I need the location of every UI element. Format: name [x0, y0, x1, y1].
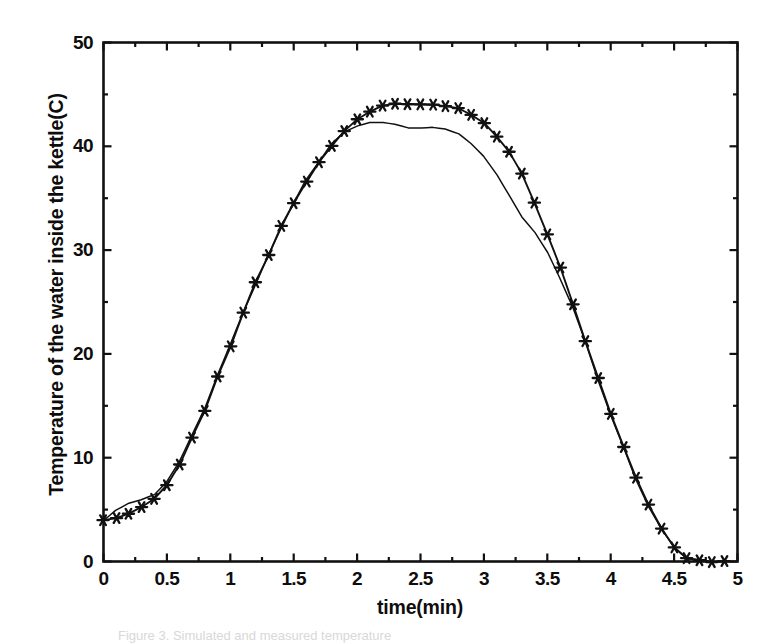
figure-container: Temperature of the water inside the kett…	[0, 0, 780, 644]
data-series-group	[97, 99, 730, 567]
series-line-simulated	[103, 122, 725, 562]
series-line-measured	[103, 104, 724, 562]
series-simulated	[103, 122, 725, 562]
plot-frame	[104, 43, 738, 562]
plot-area	[0, 0, 780, 644]
plot-frame-box	[104, 43, 738, 562]
figure-caption: Figure 3. Simulated and measured tempera…	[118, 628, 391, 643]
axis-ticks	[104, 43, 738, 562]
series-markers-measured	[97, 99, 730, 567]
series-measured	[97, 99, 730, 567]
